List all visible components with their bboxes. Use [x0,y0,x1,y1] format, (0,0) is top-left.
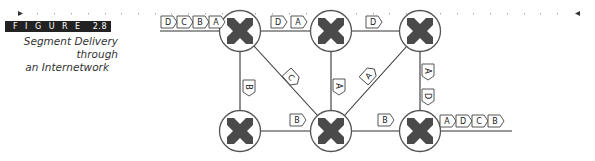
svg-text:C: C [476,117,482,126]
svg-text:A: A [334,83,343,89]
packet-bottom-left-mid: B [290,114,306,126]
packet-top-mid-right: D [366,16,382,28]
svg-text:D: D [165,18,171,27]
packet-input: B [193,16,209,28]
packet-output: A [440,115,456,127]
svg-text:D: D [275,18,281,27]
packet-input: C [177,16,193,28]
svg-text:A: A [444,117,450,126]
packet-input: A [209,16,225,28]
svg-text:A: A [423,68,432,74]
packet-output: B [488,115,504,127]
svg-text:B: B [492,117,498,126]
router-icon [311,111,352,152]
svg-text:D: D [460,117,466,126]
router-icon [220,11,261,52]
packet-mid-vertical: A [333,79,345,95]
svg-text:B: B [294,116,300,125]
router-icon [400,111,441,152]
svg-text:D: D [423,93,432,99]
packet-top-left-mid: D [271,16,287,28]
router-icon [220,111,261,152]
packet-top-left-mid: A [291,16,307,28]
link-diag-right [344,46,407,116]
router-icon [311,11,352,52]
packet-diag-right: A [359,65,379,85]
packet-right-vertical: A [422,64,434,80]
internetwork-diagram: D C B A D A D B C A A A D B B A D C B [0,0,595,161]
packet-left-vertical: B [243,80,255,96]
svg-text:B: B [197,18,203,27]
svg-text:A: A [295,18,301,27]
svg-text:C: C [181,18,187,27]
packet-bottom-mid-right: B [378,114,394,126]
packet-input: D [161,16,177,28]
svg-text:A: A [213,18,219,27]
packet-right-vertical: D [422,89,434,105]
link-diag-left [254,46,318,116]
svg-text:D: D [370,18,376,27]
svg-text:B: B [244,84,253,90]
packet-diag-left: C [282,68,302,88]
svg-text:B: B [382,116,388,125]
packet-output: C [472,115,488,127]
packet-output: D [456,115,472,127]
router-icon [400,11,441,52]
